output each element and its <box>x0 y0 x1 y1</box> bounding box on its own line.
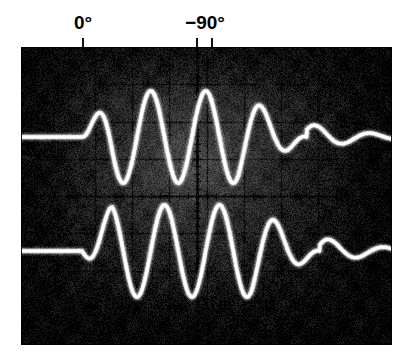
annotation-strip: 0° −90° <box>0 0 412 47</box>
phase-tick-minus-90-degrees <box>196 38 198 47</box>
phase-tick-secondary <box>211 38 213 47</box>
waveform-canvas <box>21 47 392 345</box>
phase-label-0-degrees: 0° <box>74 12 92 34</box>
phase-label-minus-90-degrees: −90° <box>185 12 225 34</box>
oscilloscope-figure: 0° −90° <box>0 0 412 362</box>
phase-tick-0-degrees <box>82 38 84 47</box>
crt-screen <box>21 47 392 345</box>
